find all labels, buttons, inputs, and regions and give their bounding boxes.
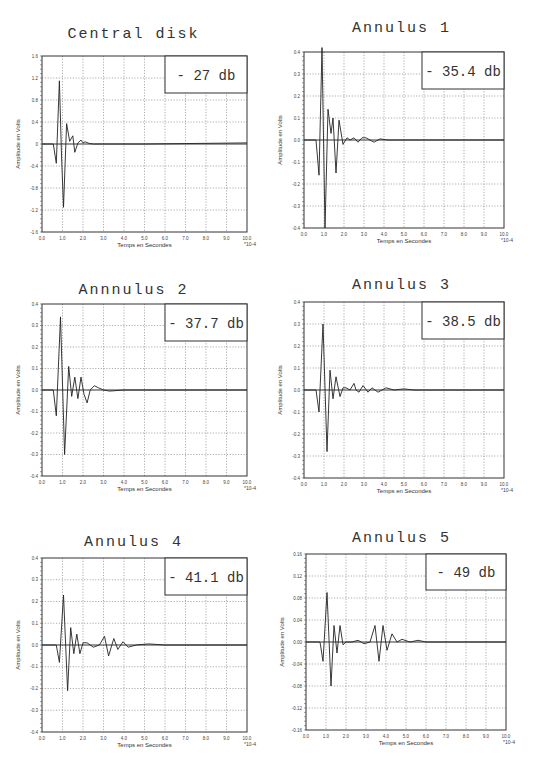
x-tick-label: 4.0	[121, 736, 128, 741]
y-tick-label: -0.4	[292, 476, 300, 481]
y-tick-label: 0.00	[293, 640, 302, 645]
y-tick-label: -0.1	[292, 160, 300, 165]
x-tick-label: 5.0	[141, 236, 148, 241]
y-tick-label: 0.2	[294, 344, 301, 349]
x-tick-label: 1.0	[59, 236, 66, 241]
x-tick-label: 6.0	[162, 236, 169, 241]
y-tick-label: -0.04	[292, 662, 303, 667]
x-tick-label: 5.0	[141, 480, 148, 485]
x-multiplier-label: *10-4	[244, 485, 256, 491]
y-tick-label: 0	[35, 142, 38, 147]
y-tick-label: 0.2	[32, 599, 39, 604]
y-tick-label: -0.2	[292, 432, 300, 437]
annotation-db-label: - 41.1 db	[168, 570, 244, 586]
x-tick-label: 5.0	[141, 736, 148, 741]
y-tick-label: -0.2	[30, 686, 38, 691]
y-axis-label: Amplitude en Volts	[15, 365, 21, 415]
x-tick-label: 1.0	[59, 480, 66, 485]
y-tick-label: 0.1	[294, 366, 301, 371]
chart-title: Annulus 5	[268, 530, 535, 547]
y-tick-label: 1.6	[32, 54, 39, 59]
y-axis-label: Amplitude en Volts	[15, 119, 21, 169]
y-tick-label: -0.3	[292, 204, 300, 209]
x-tick-label: 5.0	[401, 482, 408, 487]
x-tick-label: 8.0	[463, 734, 470, 739]
x-tick-label: 6.0	[421, 482, 428, 487]
y-tick-label: 0.0	[32, 643, 39, 648]
y-tick-label: 0.4	[32, 302, 39, 307]
annotation-db-label: - 35.4 db	[425, 64, 501, 80]
annotation-db-label: - 27 db	[177, 68, 236, 84]
y-tick-label: -0.2	[292, 182, 300, 187]
chart-svg: 0.40.30.20.10.0-0.1-0.2-0.3-0.40.01.02.0…	[268, 268, 535, 513]
y-tick-label: 0.2	[32, 345, 39, 350]
x-tick-label: 7.0	[441, 232, 448, 237]
y-tick-label: 0.4	[32, 556, 39, 561]
x-multiplier-label: *10-4	[244, 241, 256, 247]
x-tick-label: 7.0	[182, 736, 189, 741]
x-multiplier-label: *10-4	[503, 739, 515, 745]
x-tick-label: 2.0	[80, 236, 87, 241]
x-tick-label: 5.0	[403, 734, 410, 739]
y-axis-label: Amplitude en Volts	[277, 115, 283, 165]
y-tick-label: -0.1	[30, 664, 38, 669]
x-tick-label: 1.0	[59, 736, 66, 741]
x-tick-label: 7.0	[182, 236, 189, 241]
x-tick-label: 6.0	[162, 480, 169, 485]
x-tick-label: 2.0	[341, 232, 348, 237]
y-tick-label: 0.1	[32, 621, 39, 626]
chart-svg: 0.40.30.20.10.0-0.1-0.2-0.3-0.40.01.02.0…	[0, 268, 267, 513]
x-tick-label: 2.0	[80, 736, 87, 741]
x-tick-label: 7.0	[443, 734, 450, 739]
chart-svg: 0.40.30.20.10.0-0.1-0.2-0.3-0.40.01.02.0…	[0, 518, 267, 762]
y-tick-label: 0.3	[32, 323, 39, 328]
y-tick-label: -0.1	[292, 410, 300, 415]
x-tick-label: 6.0	[423, 734, 430, 739]
y-tick-label: -0.4	[30, 474, 38, 479]
x-tick-label: 9.0	[223, 236, 230, 241]
y-tick-label: 0.0	[294, 138, 301, 143]
x-tick-label: 0.0	[301, 232, 308, 237]
x-tick-label: 9.0	[223, 736, 230, 741]
x-tick-label: 0.0	[303, 734, 310, 739]
y-tick-label: 0.16	[293, 552, 302, 557]
y-tick-label: -0.4	[30, 164, 38, 169]
y-tick-label: -0.3	[30, 452, 38, 457]
x-axis-label: Temps en Secondes	[377, 488, 431, 494]
x-tick-label: 4.0	[121, 480, 128, 485]
x-tick-label: 3.0	[100, 236, 107, 241]
x-tick-label: 3.0	[100, 480, 107, 485]
x-tick-label: 2.0	[80, 480, 87, 485]
x-tick-label: 4.0	[121, 236, 128, 241]
x-tick-label: 9.0	[481, 232, 488, 237]
y-tick-label: -0.4	[292, 226, 300, 231]
x-tick-label: 2.0	[343, 734, 350, 739]
y-tick-label: -0.1	[30, 409, 38, 414]
x-tick-label: 4.0	[383, 734, 390, 739]
chart-panel-annulus-3: Annulus 3 0.40.30.20.10.0-0.1-0.2-0.3-0.…	[268, 268, 535, 513]
chart-panel-central-disk: Central disk 1.61.20.80.40-0.4-0.8-1.2-1…	[0, 0, 267, 255]
chart-panel-annulus-5: Annulus 5 0.160.120.080.040.00-0.04-0.08…	[268, 518, 535, 762]
x-axis-label: Temps en Secondes	[117, 742, 171, 748]
y-tick-label: 0.0	[294, 388, 301, 393]
x-tick-label: 4.0	[381, 482, 388, 487]
x-tick-label: 6.0	[162, 736, 169, 741]
chart-svg: 0.40.30.20.10.0-0.1-0.2-0.3-0.40.01.02.0…	[268, 0, 535, 255]
y-tick-label: 0.4	[294, 300, 301, 305]
y-tick-label: 0.1	[32, 366, 39, 371]
y-tick-label: 0.3	[294, 72, 301, 77]
x-tick-label: 8.0	[461, 232, 468, 237]
x-tick-label: 7.0	[441, 482, 448, 487]
chart-title: Annulus 3	[268, 277, 535, 294]
chart-title: Annnulus 2	[0, 282, 267, 299]
y-tick-label: -0.8	[30, 186, 38, 191]
y-tick-label: 0.1	[294, 116, 301, 121]
chart-panel-annulus-2: Annnulus 2 0.40.30.20.10.0-0.1-0.2-0.3-0…	[0, 268, 267, 513]
y-tick-label: -1.6	[30, 230, 38, 235]
y-tick-label: 0.3	[294, 322, 301, 327]
x-tick-label: 3.0	[100, 736, 107, 741]
series-line-signal	[304, 324, 504, 452]
chart-title: Annulus 4	[0, 534, 267, 551]
x-tick-label: 1.0	[321, 232, 328, 237]
x-tick-label: 7.0	[182, 480, 189, 485]
